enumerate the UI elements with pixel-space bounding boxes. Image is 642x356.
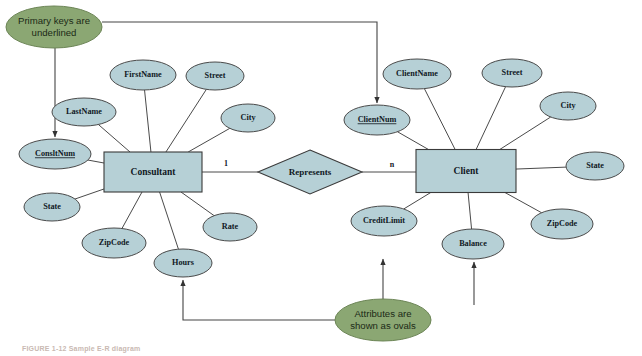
attribute-label: ClientName xyxy=(396,69,438,78)
attribute-node[interactable]: State xyxy=(24,193,80,221)
entity-consultant[interactable]: Consultant xyxy=(104,152,202,192)
attribute-label: Hours xyxy=(172,258,194,267)
attributes-note[interactable]: Attributes areshown as ovals xyxy=(335,299,431,341)
attribute-label: Street xyxy=(205,71,226,80)
attribute-label: City xyxy=(240,113,256,122)
attribute-connector xyxy=(398,132,429,150)
attribute-label: Rate xyxy=(222,222,239,231)
entity-label: Consultant xyxy=(131,167,177,177)
note-connector-hours xyxy=(183,280,335,320)
attribute-connector xyxy=(468,193,472,230)
attribute-node[interactable]: LastName xyxy=(52,98,116,126)
note-layer: Primary keys areunderlinedAttributes are… xyxy=(6,6,431,341)
attribute-node[interactable]: ClientName xyxy=(383,59,451,89)
attribute-label: CreditLimit xyxy=(363,216,405,225)
primary-key-note[interactable]: Primary keys areunderlined xyxy=(6,6,102,48)
attribute-label: Balance xyxy=(459,239,487,248)
attribute-connector xyxy=(166,89,206,152)
cardinality-left: 1 xyxy=(224,159,228,168)
note-text-line1: Attributes are xyxy=(354,308,411,319)
attribute-node[interactable]: CreditLimit xyxy=(351,206,417,236)
attribute-connector xyxy=(505,193,542,213)
attribute-node[interactable]: ZipCode xyxy=(82,228,146,258)
cardinality-right: n xyxy=(390,160,395,169)
attribute-node[interactable]: Rate xyxy=(203,213,257,241)
attribute-label-primary-key: ClientNum xyxy=(358,115,397,124)
attribute-node[interactable]: ClientNum xyxy=(344,105,410,135)
attribute-node[interactable]: ConsltNum xyxy=(19,139,91,169)
attribute-connector xyxy=(188,128,230,152)
attribute-connector xyxy=(404,193,431,209)
er-diagram: ConsultantClient Represents1n FirstNameS… xyxy=(0,0,642,356)
er-diagram-canvas: ConsultantClient Represents1n FirstNameS… xyxy=(0,0,642,356)
attribute-node[interactable]: City xyxy=(221,104,275,132)
attribute-connector xyxy=(424,89,455,150)
attribute-label-primary-key: ConsltNum xyxy=(35,149,75,158)
attribute-node[interactable]: Street xyxy=(482,59,542,87)
figure-caption: FIGURE 1-12 Sample E-R diagram xyxy=(22,345,140,352)
attribute-label: ZipCode xyxy=(547,219,578,228)
attribute-label: Street xyxy=(502,68,523,77)
relationship-label: Represents xyxy=(289,167,332,177)
attribute-connector xyxy=(88,160,104,163)
attribute-label: LastName xyxy=(66,107,102,116)
attribute-connector xyxy=(181,192,214,216)
attribute-connector xyxy=(145,90,151,152)
attribute-label: ZipCode xyxy=(99,238,130,247)
note-text-line2: shown as ovals xyxy=(350,320,416,331)
note-text-line1: Primary keys are xyxy=(18,15,90,26)
attribute-node[interactable]: FirstName xyxy=(110,60,176,90)
entity-client[interactable]: Client xyxy=(416,150,516,193)
attribute-node[interactable]: Hours xyxy=(154,249,212,277)
attribute-connector xyxy=(98,125,130,152)
attribute-node[interactable]: City xyxy=(540,92,596,120)
relationship-represents[interactable]: Represents xyxy=(258,150,362,194)
attribute-node[interactable]: State xyxy=(566,152,624,180)
entity-label: Client xyxy=(454,166,480,176)
attribute-label: FirstName xyxy=(124,70,162,79)
attribute-node[interactable]: ZipCode xyxy=(531,209,593,239)
attribute-connector xyxy=(160,192,179,249)
attribute-label: State xyxy=(586,161,604,170)
note-text-line2: underlined xyxy=(32,27,77,38)
attribute-node[interactable]: Balance xyxy=(442,229,504,259)
attribute-label: State xyxy=(43,202,61,211)
attribute-connector xyxy=(476,87,505,150)
attribute-connector xyxy=(122,192,142,228)
attribute-connector xyxy=(500,117,551,149)
attribute-connector xyxy=(516,167,566,169)
attribute-node[interactable]: Street xyxy=(186,62,244,90)
attribute-label: City xyxy=(560,101,576,110)
attribute-connector xyxy=(75,189,104,199)
